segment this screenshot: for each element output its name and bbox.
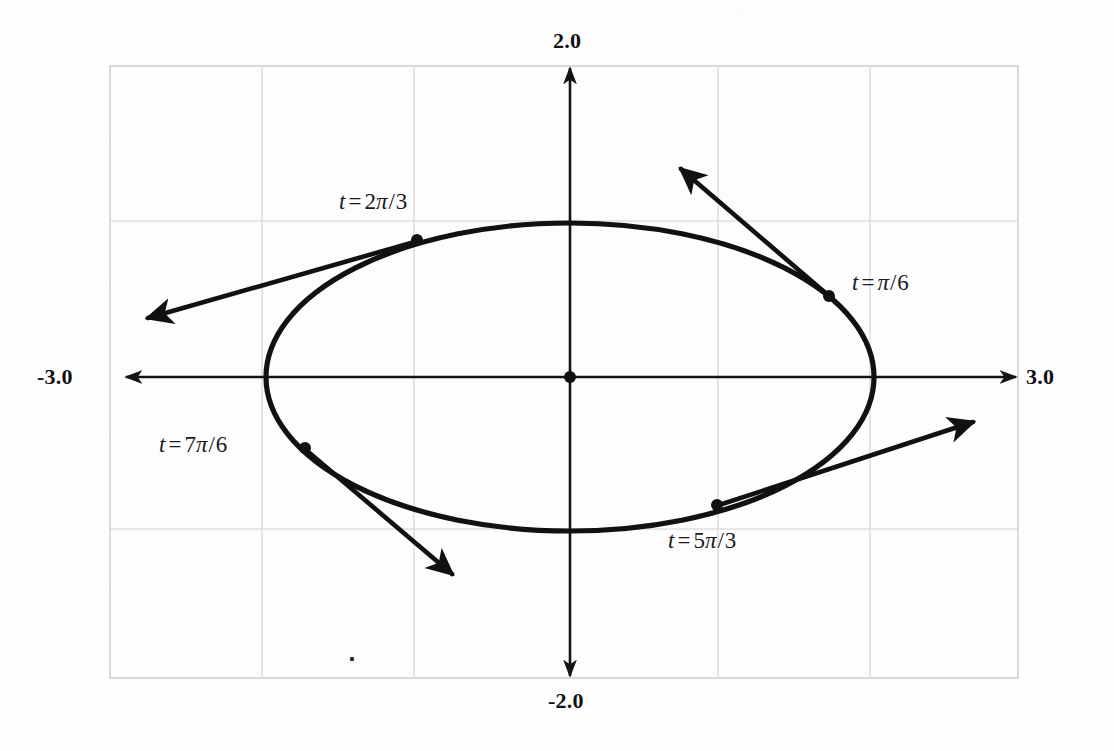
label-pi-symbol: π (196, 432, 208, 457)
label-slash: / (207, 432, 215, 457)
point-label-t-2pi-3: t=2π/3 (339, 189, 407, 215)
tangent-arrow-t-5pi-3 (716, 422, 973, 506)
x-axis-min-label: -3.0 (37, 364, 73, 390)
y-axis-min-label: -2.0 (548, 688, 584, 714)
label-equals: = (674, 528, 693, 553)
label-equals: = (165, 432, 184, 457)
point-label-t-7pi-6: t=7π/6 (159, 432, 227, 458)
label-slash: / (387, 189, 395, 214)
plot-frame (110, 66, 1018, 678)
parametric-curve-figure: 2.0 -2.0 -3.0 3.0 t=2π/3 t=π/6 t=7π/6 t=… (0, 0, 1114, 751)
label-equals: = (345, 189, 364, 214)
plot-canvas (0, 0, 1114, 751)
gridlines-vertical (262, 66, 870, 678)
x-axis-max-label: 3.0 (1026, 364, 1054, 390)
y-axis-max-label: 2.0 (553, 28, 581, 54)
origin-dot (564, 371, 576, 383)
point-label-t-pi-6: t=π/6 (852, 270, 909, 296)
label-numerator: 7 (184, 432, 196, 457)
label-pi-symbol: π (705, 528, 717, 553)
label-pi-symbol: π (877, 270, 889, 295)
label-denominator: 3 (396, 189, 408, 214)
curve-point-t-5pi-3 (711, 499, 723, 511)
gridlines-horizontal (110, 221, 1018, 529)
label-denominator: 6 (897, 270, 909, 295)
label-equals: = (858, 270, 877, 295)
label-denominator: 6 (216, 432, 228, 457)
tangent-arrow-t-2pi-3 (148, 241, 418, 318)
label-numerator: 2 (364, 189, 376, 214)
tangent-arrow-t-pi-6 (681, 169, 829, 296)
point-label-t-5pi-3: t=5π/3 (668, 528, 736, 554)
label-pi-symbol: π (376, 189, 388, 214)
curve-point-t-pi-6 (823, 290, 835, 302)
label-numerator: 5 (693, 528, 705, 553)
curve-point-t-2pi-3 (411, 234, 423, 246)
label-slash: / (716, 528, 724, 553)
curve-point-t-7pi-6 (299, 442, 311, 454)
ink-speck (350, 657, 354, 661)
label-denominator: 3 (725, 528, 737, 553)
